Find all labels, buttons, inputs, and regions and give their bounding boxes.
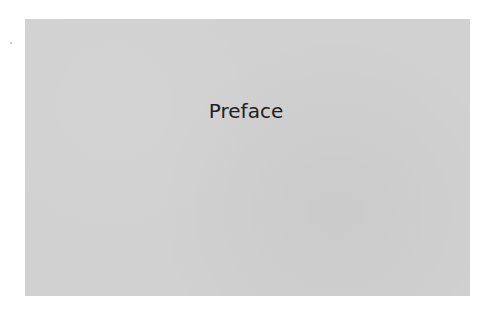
page-title: Preface bbox=[22, 99, 470, 123]
margin-speck bbox=[10, 42, 12, 44]
title-panel: Preface bbox=[25, 19, 470, 296]
